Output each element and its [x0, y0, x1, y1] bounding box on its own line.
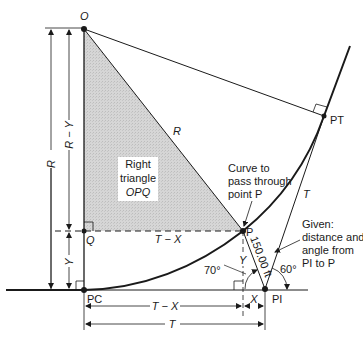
- label-y-vertical: Y: [239, 254, 247, 266]
- given-note-arrow: [275, 240, 300, 252]
- label-t-bottom: T: [169, 318, 177, 330]
- label-radius: R: [173, 125, 181, 137]
- triangle-label-line3: OPQ: [126, 186, 151, 198]
- label-angle-60: 60°: [280, 263, 297, 275]
- curve-note-line3-text: point P: [228, 188, 262, 200]
- label-t-minus-x-horizontal: T − X: [155, 233, 182, 245]
- right-angle-y: [234, 281, 243, 290]
- label-o: O: [80, 10, 89, 22]
- label-angle-70: 70°: [204, 264, 221, 276]
- label-q: Q: [86, 234, 95, 246]
- point-q: [82, 229, 87, 234]
- label-y-left: Y: [63, 258, 75, 266]
- curve-note-arrow: [244, 201, 252, 226]
- label-pc: PC: [87, 293, 102, 305]
- label-pi: PI: [272, 293, 282, 305]
- given-note-line2: distance and: [302, 231, 363, 243]
- label-r-minus-y: R − Y: [63, 121, 75, 149]
- label-r-dim: R: [45, 160, 57, 168]
- point-pi: [262, 286, 268, 292]
- point-pt: [322, 114, 327, 119]
- triangle-label-line2: triangle: [120, 172, 156, 184]
- curve-geometry-diagram: R R − Y Y T − X X T 70° 60° O PT PI PC Q…: [0, 0, 363, 344]
- given-note-line3: angle from: [302, 244, 354, 256]
- point-o: [81, 26, 87, 32]
- given-note-line4: PI to P: [302, 257, 335, 269]
- label-x: X: [249, 293, 258, 305]
- label-distance-p-pi: 150.00 ft: [248, 234, 275, 278]
- triangle-label-line1: Right: [125, 158, 151, 170]
- angle-arc-70: [245, 270, 257, 289]
- label-pt: PT: [330, 114, 344, 126]
- label-tangent: T: [303, 188, 311, 200]
- given-note-line1: Given:: [302, 218, 334, 230]
- curve-note-line1: Curve to: [228, 162, 270, 174]
- curve-note-line2: pass through: [228, 175, 292, 187]
- label-t-minus-x-bottom: T − X: [152, 300, 179, 312]
